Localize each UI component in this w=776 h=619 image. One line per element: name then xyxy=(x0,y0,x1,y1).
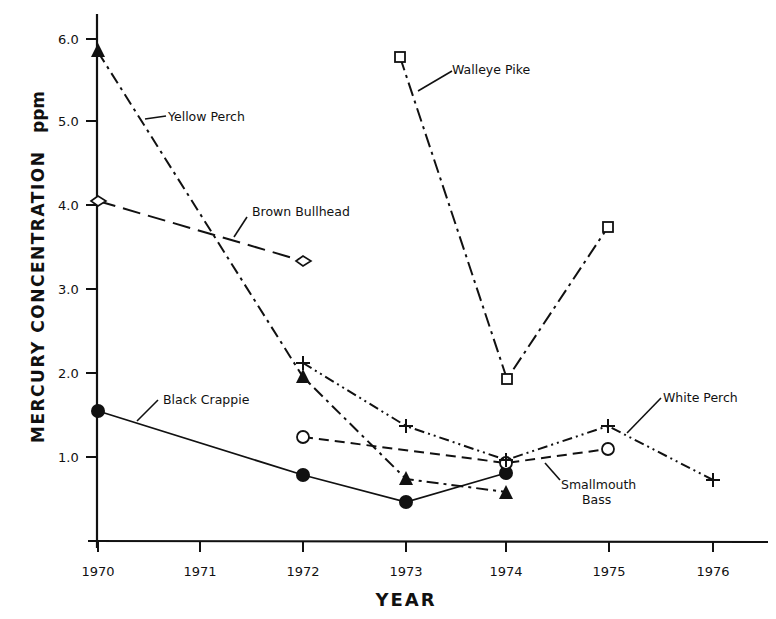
label-walleye-pike: Walleye Pike xyxy=(452,62,530,77)
series-white-perch: White Perch xyxy=(296,356,738,487)
label-smallmouth-bass-line1: Smallmouth xyxy=(561,477,636,492)
x-tick-label: 1970 xyxy=(81,564,114,579)
x-tick-label: 1975 xyxy=(592,564,625,579)
label-yellow-perch: Yellow Perch xyxy=(167,109,245,124)
series-black-crappie: Black Crappie xyxy=(91,392,513,509)
y-ticks xyxy=(86,39,97,457)
y-tick-label: 5.0 xyxy=(58,114,79,129)
y-tick-label: 2.0 xyxy=(58,366,79,381)
y-axis-title: MERCURY CONCENTRATION ppm xyxy=(28,91,48,443)
y-tick-label: 3.0 xyxy=(58,282,79,297)
x-axis xyxy=(88,541,768,542)
y-axis-title-text: MERCURY CONCENTRATION xyxy=(28,151,48,443)
x-tick-labels: 1970 1971 1972 1973 1974 1975 1976 xyxy=(81,564,729,579)
y-axis-unit: ppm xyxy=(28,91,48,133)
x-axis-title: YEAR xyxy=(374,589,436,610)
y-tick-label: 6.0 xyxy=(58,32,79,47)
axes xyxy=(88,14,768,548)
label-black-crappie: Black Crappie xyxy=(163,392,250,407)
mercury-concentration-chart: 1.0 2.0 3.0 4.0 5.0 6.0 1970 1971 1972 1… xyxy=(0,0,776,619)
x-tick-label: 1974 xyxy=(489,564,522,579)
x-tick-label: 1972 xyxy=(286,564,319,579)
series-walleye-pike: Walleye Pike xyxy=(395,52,613,384)
y-tick-label: 1.0 xyxy=(58,450,79,465)
label-smallmouth-bass-line2: Bass xyxy=(582,492,611,507)
x-tick-label: 1976 xyxy=(696,564,729,579)
square-marker-icon xyxy=(395,52,613,384)
y-tick-labels: 1.0 2.0 3.0 4.0 5.0 6.0 xyxy=(58,32,79,465)
y-tick-label: 4.0 xyxy=(58,198,79,213)
x-tick-label: 1971 xyxy=(183,564,216,579)
label-brown-bullhead: Brown Bullhead xyxy=(252,204,350,219)
label-white-perch: White Perch xyxy=(663,390,738,405)
x-tick-label: 1973 xyxy=(389,564,422,579)
open-circle-marker-icon xyxy=(297,431,614,469)
series-smallmouth-bass: Smallmouth Bass xyxy=(297,431,636,507)
series-brown-bullhead: Brown Bullhead xyxy=(91,196,350,266)
